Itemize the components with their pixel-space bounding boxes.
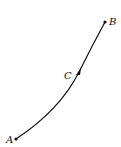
direction-arrow-icon bbox=[76, 68, 81, 75]
label-a: A bbox=[5, 134, 13, 145]
point-a bbox=[14, 137, 17, 140]
label-b: B bbox=[108, 16, 116, 27]
curve-a-to-b bbox=[16, 22, 105, 139]
diagram-canvas: A C B bbox=[0, 0, 121, 147]
point-b bbox=[103, 20, 106, 23]
label-c: C bbox=[64, 70, 72, 81]
